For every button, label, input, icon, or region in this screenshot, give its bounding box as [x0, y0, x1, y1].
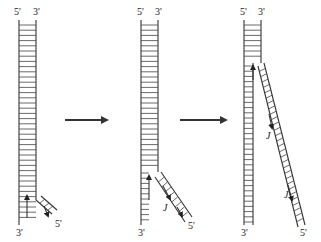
- lagging-branch-ladder: [155, 172, 192, 222]
- label-3prime-top: 3': [155, 6, 162, 17]
- panel-3: 5' 3' J J 3' 5': [240, 6, 307, 238]
- panel-2: 5' 3' J 3' 5': [137, 6, 195, 238]
- replication-diagram: 5' 3' 3' 5' 5' 3': [0, 0, 321, 242]
- label-3prime-top: 3': [258, 6, 265, 17]
- lagging-branch-ladder: [258, 63, 305, 227]
- label-5prime-top: 5': [240, 6, 247, 17]
- label-3prime-bottom: 3': [241, 227, 248, 238]
- label-5prime-branch: 5': [300, 227, 307, 238]
- parent-duplex-ladder: [19, 20, 36, 225]
- label-5prime-branch: 5': [55, 218, 62, 229]
- okazaki-arrow-icon: [44, 206, 48, 216]
- label-3prime-bottom: 3': [16, 227, 23, 238]
- lagging-branch-ladder: [36, 196, 57, 216]
- parent-duplex-ladder: [244, 20, 261, 225]
- label-3prime-bottom: 3': [138, 227, 145, 238]
- okazaki-label-j: J: [266, 130, 271, 141]
- label-5prime-branch: 5': [188, 220, 195, 231]
- label-3prime-top: 3': [33, 6, 40, 17]
- panel-1: 5' 3' 3' 5': [14, 6, 62, 238]
- okazaki-label-j: J: [284, 189, 289, 200]
- label-5prime-top: 5': [14, 6, 21, 17]
- okazaki-arrow-icon: [163, 186, 170, 199]
- okazaki-arrow-icon: [288, 185, 292, 200]
- okazaki-label-j: J: [163, 202, 168, 213]
- label-5prime-top: 5': [137, 6, 144, 17]
